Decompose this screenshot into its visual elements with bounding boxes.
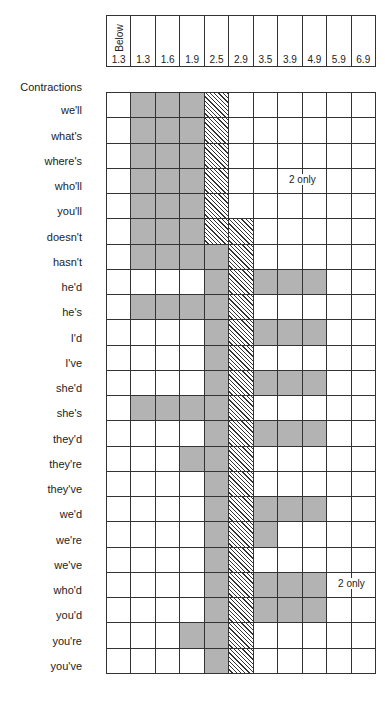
empty-cell <box>180 522 204 547</box>
empty-cell <box>131 548 155 573</box>
column-header: 6.9 <box>352 16 376 67</box>
row-label: he's <box>0 294 82 319</box>
shaded-cell <box>180 194 204 219</box>
empty-cell <box>131 371 155 396</box>
row-label: she's <box>0 395 82 420</box>
empty-cell <box>107 371 131 396</box>
empty-cell <box>107 169 131 194</box>
empty-cell <box>327 118 351 143</box>
empty-cell <box>352 371 376 396</box>
empty-cell <box>327 548 351 573</box>
row-label: doesn't <box>0 218 82 243</box>
hatched-cell <box>229 447 253 472</box>
column-tick-label: 3.9 <box>278 54 301 65</box>
empty-cell <box>303 144 327 169</box>
shaded-cell <box>131 169 155 194</box>
hatched-cell <box>229 371 253 396</box>
empty-cell <box>180 421 204 446</box>
shaded-cell <box>180 144 204 169</box>
column-tick-label: 6.9 <box>352 54 375 65</box>
shaded-cell <box>180 219 204 244</box>
below-label: Below <box>113 24 124 51</box>
empty-cell <box>254 649 278 674</box>
shaded-cell <box>180 169 204 194</box>
empty-cell <box>107 144 131 169</box>
empty-cell <box>107 118 131 143</box>
empty-cell <box>156 548 180 573</box>
hatched-cell <box>229 245 253 270</box>
empty-cell <box>352 497 376 522</box>
empty-cell <box>352 118 376 143</box>
empty-cell <box>254 472 278 497</box>
shaded-cell <box>205 270 229 295</box>
row-label: he'd <box>0 269 82 294</box>
row-label-text: they'd <box>53 433 82 445</box>
shaded-cell <box>303 573 327 598</box>
column-tick-label: 5.9 <box>327 54 350 65</box>
row-label-text: we've <box>54 559 82 571</box>
row-label-text: doesn't <box>47 231 82 243</box>
empty-cell <box>156 346 180 371</box>
hatched-cell <box>229 219 253 244</box>
hatched-cell <box>205 118 229 143</box>
row-label: they've <box>0 471 82 496</box>
empty-cell <box>303 346 327 371</box>
empty-cell <box>352 320 376 345</box>
shaded-cell <box>205 320 229 345</box>
empty-cell <box>327 270 351 295</box>
empty-cell <box>131 421 155 446</box>
row-label-text: what's <box>51 130 82 142</box>
hatched-cell <box>229 649 253 674</box>
column-tick-label: 1.3 <box>131 54 154 65</box>
empty-cell <box>278 219 302 244</box>
empty-cell <box>327 623 351 648</box>
shaded-cell <box>131 219 155 244</box>
row-label-text: who'll <box>55 180 82 192</box>
empty-cell <box>303 623 327 648</box>
shaded-cell <box>131 118 155 143</box>
column-header: 1.9 <box>180 16 204 67</box>
shaded-cell <box>205 548 229 573</box>
row-label: where's <box>0 143 82 168</box>
empty-cell <box>131 649 155 674</box>
row-label-text: we're <box>56 534 82 546</box>
empty-cell <box>327 371 351 396</box>
empty-cell <box>278 623 302 648</box>
row-label: we'd <box>0 496 82 521</box>
shaded-cell <box>180 118 204 143</box>
empty-cell <box>107 320 131 345</box>
empty-cell <box>180 649 204 674</box>
empty-cell <box>303 118 327 143</box>
column-header: Below1.3 <box>107 16 131 67</box>
empty-cell <box>303 219 327 244</box>
shaded-cell <box>205 447 229 472</box>
empty-cell <box>156 649 180 674</box>
empty-cell <box>327 447 351 472</box>
empty-cell <box>352 270 376 295</box>
shaded-cell <box>303 320 327 345</box>
empty-cell <box>107 421 131 446</box>
empty-cell <box>278 472 302 497</box>
column-tick-label: 1.6 <box>156 54 179 65</box>
empty-cell <box>352 447 376 472</box>
row-label-text: I've <box>65 357 82 369</box>
empty-cell <box>180 472 204 497</box>
empty-cell <box>278 522 302 547</box>
row-label-text: I'd <box>71 332 82 344</box>
empty-cell <box>303 396 327 421</box>
empty-cell <box>352 548 376 573</box>
shaded-cell <box>205 623 229 648</box>
hatched-cell <box>229 573 253 598</box>
row-label-text: she's <box>57 407 82 419</box>
empty-cell <box>327 320 351 345</box>
row-label: we'll <box>0 92 82 117</box>
empty-cell <box>107 447 131 472</box>
empty-cell <box>352 169 376 194</box>
empty-cell <box>229 194 253 219</box>
empty-cell <box>352 598 376 623</box>
empty-cell <box>278 447 302 472</box>
empty-cell <box>156 472 180 497</box>
column-tick-label: 4.9 <box>303 54 326 65</box>
shaded-cell <box>156 169 180 194</box>
empty-cell <box>352 623 376 648</box>
